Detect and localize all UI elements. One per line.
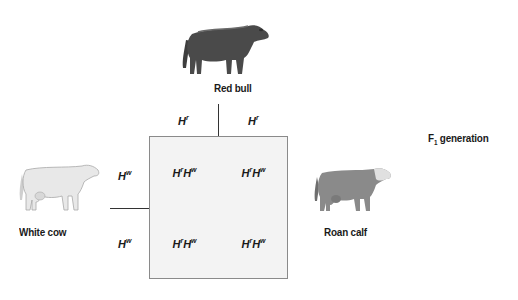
punnett-cell-2-2: HrHw [219, 209, 288, 279]
punnett-cell-2-1: HrHw [150, 209, 219, 279]
column-allele-1: Hr [178, 115, 189, 127]
white-cow-label: White cow [19, 226, 66, 238]
punnett-cell-1-1: HrHw [150, 137, 219, 209]
punnett-cell-1-2: HrHw [219, 137, 288, 209]
roan-calf-label: Roan calf [324, 226, 367, 238]
f1-generation-label: F1 generation [428, 132, 489, 146]
roan-calf-image [312, 163, 394, 215]
red-bull-image [178, 18, 273, 78]
punnett-square: HrHw HrHw HrHw HrHw [149, 136, 288, 279]
row-allele-1: Hw [118, 170, 131, 182]
white-cow-image [16, 160, 102, 216]
column-allele-2: Hr [248, 115, 259, 127]
red-bull-label: Red bull [214, 82, 252, 94]
row-allele-2: Hw [118, 238, 131, 250]
